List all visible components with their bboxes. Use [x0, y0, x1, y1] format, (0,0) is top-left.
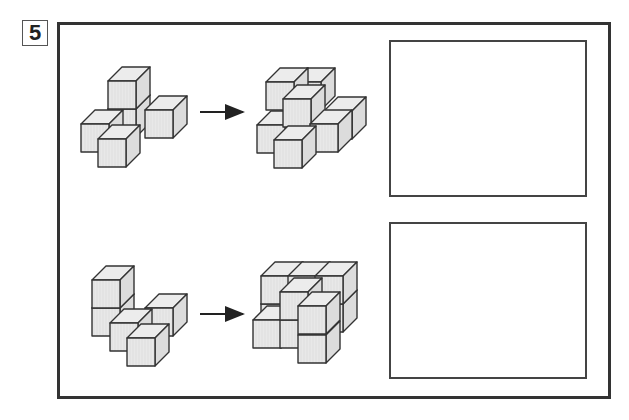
cube-figure-row-1-before — [81, 67, 187, 167]
cube-figure-row-2-after — [253, 262, 357, 363]
cube — [145, 96, 187, 138]
figures-canvas — [0, 0, 629, 420]
cube-figure-row-1-after — [257, 68, 366, 168]
cube-figure-row-2-before — [92, 266, 187, 366]
